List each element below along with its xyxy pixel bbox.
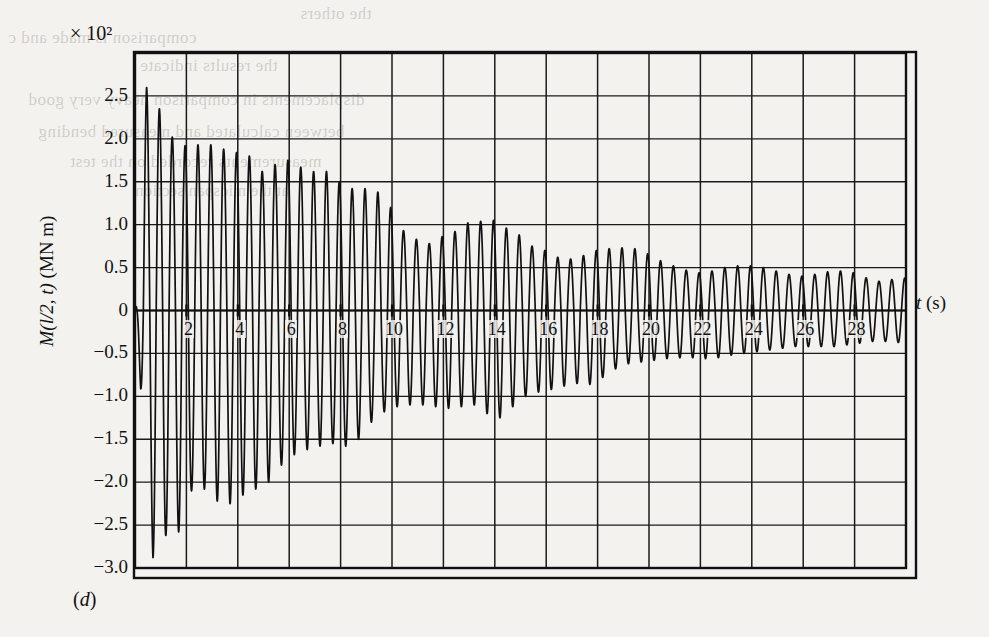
x-axis-title: t (s) — [916, 292, 946, 314]
chart-data-series — [135, 87, 906, 557]
y-axis-tick-label: 2.0 — [40, 127, 128, 149]
y-axis-title-text: M(l/2, t) (MN m) — [36, 216, 57, 347]
y-axis-tick-label: −3.0 — [40, 556, 128, 578]
x-axis-tick-label: 4 — [234, 320, 246, 338]
x-axis-tick-label: 2 — [183, 320, 195, 338]
figure-page: the otherscomparison is made and cthe re… — [0, 0, 989, 637]
x-axis-tick-label: 12 — [435, 320, 456, 338]
x-axis-tick-label: 26 — [795, 320, 816, 338]
y-axis-tick-label: −2.0 — [40, 470, 128, 492]
x-axis-tick-label: 14 — [486, 320, 507, 338]
x-axis-tick-label: 16 — [538, 320, 559, 338]
y-axis-tick-label: −1.5 — [40, 427, 128, 449]
figure-panel-label: (d) — [73, 588, 96, 611]
x-axis-tick-label: 20 — [641, 320, 662, 338]
y-axis-tick-label: −2.5 — [40, 513, 128, 535]
x-axis-tick-label: 28 — [846, 320, 867, 338]
x-axis-tick-label: 24 — [743, 320, 764, 338]
y-axis-tick-label: 2.5 — [40, 84, 128, 106]
x-axis-tick-label: 18 — [589, 320, 610, 338]
data-series-line — [135, 87, 906, 557]
x-axis-tick-label: 22 — [692, 320, 713, 338]
x-axis-tick-label: 10 — [384, 320, 405, 338]
x-axis-tick-label: 6 — [285, 320, 297, 338]
y-axis-title: M(l/2, t) (MN m) — [36, 171, 58, 391]
x-axis-tick-label: 8 — [337, 320, 349, 338]
